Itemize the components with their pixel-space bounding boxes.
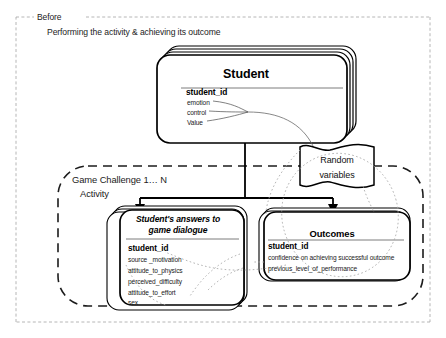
student-entity-attribute: control (187, 110, 206, 117)
student-entity-key: student_id (186, 88, 227, 97)
student-entity-attribute: Value (187, 120, 203, 127)
outcomes-entity-title: Outcomes (309, 229, 354, 239)
random-variables-note-shape (300, 144, 374, 187)
outcomes-entity-attribute: confidence on achieving successful outco… (268, 255, 394, 262)
diagram-canvas: Before Performing the activity & achievi… (0, 0, 446, 338)
outcomes-entity-attribute: previous_level_of_performance (268, 266, 357, 273)
random-variables-note-label-line2: variables (319, 171, 354, 180)
activity-container-label-line2: Activity (80, 189, 109, 199)
dotted-relation-rv-left (266, 150, 300, 214)
answers-entity-title-line1: Student's answers to (136, 215, 220, 224)
student-entity-attribute: emotion (187, 100, 210, 107)
answers-entity-attribute: source _motivation (128, 257, 182, 264)
random-variables-note-outline (300, 144, 374, 187)
scope-subtitle: Performing the activity & achieving its … (47, 28, 220, 37)
outcomes-entity-key: student_id (268, 243, 308, 252)
diagram-vector-layer (0, 0, 446, 338)
random-variables-note-label-line1: Random (320, 156, 353, 165)
answers-entity-title-line2: game dialogue (149, 226, 208, 235)
answers-entity-attribute: perceived_difficulty (128, 279, 182, 286)
student-entity-title: Student (223, 68, 269, 81)
scope-frame-label: Before (34, 13, 64, 22)
answers-entity-attribute: attitude_to_physics (128, 268, 183, 275)
answers-entity-key: student_id (128, 245, 168, 254)
answers-entity-attribute: sex (128, 300, 138, 307)
activity-container-label-line1: Game Challenge 1… N (72, 175, 167, 185)
answers-entity-attribute: attitude_to_effort (128, 290, 176, 297)
